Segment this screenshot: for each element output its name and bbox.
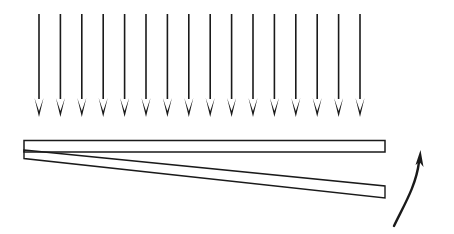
- beam-deflection-diagram: [0, 0, 454, 234]
- diagram-canvas: [0, 0, 454, 234]
- diagram-background: [0, 0, 454, 234]
